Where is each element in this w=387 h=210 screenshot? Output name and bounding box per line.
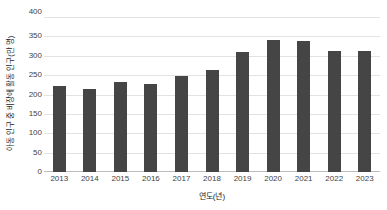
y-axis-tick-label: 350 xyxy=(14,32,42,40)
x-axis-tick-label: 2020 xyxy=(258,174,289,183)
bar-2017 xyxy=(175,76,188,172)
bar-2016 xyxy=(144,84,157,172)
bar-slot xyxy=(197,17,228,172)
x-axis-tick-label: 2022 xyxy=(319,174,350,183)
bar-slot xyxy=(136,17,167,172)
bar-slot xyxy=(319,17,350,172)
bar-slot xyxy=(227,17,258,172)
x-axis-tick-label: 2017 xyxy=(166,174,197,183)
bar-2014 xyxy=(83,89,96,172)
bar-slot xyxy=(166,17,197,172)
x-axis-tick-label: 2013 xyxy=(44,174,75,183)
x-axis-tick-label: 2018 xyxy=(197,174,228,183)
x-axis-tick-label: 2023 xyxy=(349,174,380,183)
bar-slot xyxy=(44,17,75,172)
bar-series xyxy=(44,17,380,172)
bar-slot xyxy=(75,17,106,172)
y-axis-tick-label: 100 xyxy=(14,129,42,137)
y-axis-tick-label: 200 xyxy=(14,91,42,99)
bar-slot xyxy=(288,17,319,172)
bar-slot xyxy=(105,17,136,172)
y-axis-tick-label: 250 xyxy=(14,71,42,79)
bar-chart: 아동 인구 중 비장애 활동 인구(만 명) 400 350 300 250 2… xyxy=(0,0,387,210)
y-axis-tick-label: 400 xyxy=(14,8,42,16)
y-axis-tick-label: 300 xyxy=(14,52,42,60)
x-axis-tick-label: 2019 xyxy=(227,174,258,183)
plot-area xyxy=(44,17,380,172)
bar-2022 xyxy=(328,51,341,172)
bar-2013 xyxy=(53,86,66,172)
bar-2020 xyxy=(267,40,280,172)
bar-2018 xyxy=(206,70,219,172)
x-axis-tick-label: 2015 xyxy=(105,174,136,183)
x-axis-tick-labels: 2013 2014 2015 2016 2017 2018 2019 2020 … xyxy=(44,174,380,183)
x-axis-tick-label: 2014 xyxy=(75,174,106,183)
y-axis-tick-label: 50 xyxy=(14,149,42,157)
bar-2021 xyxy=(297,41,310,172)
bar-slot xyxy=(349,17,380,172)
y-axis-title: 아동 인구 중 비장애 활동 인구(만 명) xyxy=(4,19,15,169)
bar-slot xyxy=(258,17,289,172)
bar-2023 xyxy=(358,51,371,172)
x-axis-tick-label: 2016 xyxy=(136,174,167,183)
y-axis-tick-label: 150 xyxy=(14,110,42,118)
y-axis-tick-label: 0 xyxy=(14,168,42,176)
bar-2019 xyxy=(236,52,249,172)
x-axis-tick-label: 2021 xyxy=(288,174,319,183)
x-axis-title: 연도(년) xyxy=(44,190,380,201)
bar-2015 xyxy=(114,82,127,172)
y-axis-tick-labels: 400 350 300 250 200 150 100 50 0 xyxy=(14,12,42,177)
